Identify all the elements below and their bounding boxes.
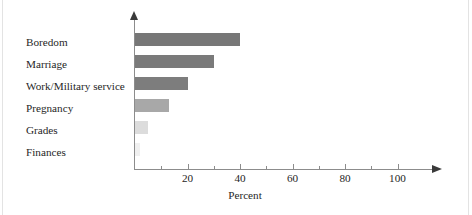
- x-tick-80: [345, 164, 346, 170]
- bar-marriage: [135, 55, 214, 68]
- x-tick-label-60: 60: [273, 172, 313, 184]
- x-axis-title: Percent: [228, 189, 262, 201]
- bar-work-military: [135, 77, 188, 90]
- x-tick-40: [240, 164, 241, 170]
- plot-area: [135, 13, 445, 173]
- page-edge-right: [468, 0, 469, 215]
- x-tick-90: [371, 166, 372, 170]
- x-tick-20: [188, 164, 189, 170]
- y-axis-arrow-icon: [130, 11, 138, 20]
- bar-chart-figure: Boredom Marriage Work/Military service P…: [0, 0, 472, 215]
- category-label-finances: Finances: [0, 146, 124, 159]
- x-tick-label-40: 40: [220, 172, 260, 184]
- category-label-pregnancy: Pregnancy: [0, 102, 124, 115]
- x-tick-50: [266, 166, 267, 170]
- bar-grades: [135, 121, 148, 134]
- x-tick-label-100: 100: [378, 172, 418, 184]
- category-axis-labels: Boredom Marriage Work/Military service P…: [0, 30, 128, 162]
- x-axis-title-wrap: Percent: [0, 189, 472, 201]
- category-label-marriage: Marriage: [0, 58, 124, 71]
- x-axis-arrow-icon: [432, 165, 442, 173]
- bar-finances: [135, 143, 140, 156]
- bar-pregnancy: [135, 99, 169, 112]
- x-axis-line: [134, 169, 436, 170]
- category-label-work-military: Work/Military service: [0, 80, 124, 93]
- x-tick-label-80: 80: [325, 172, 365, 184]
- x-tick-30: [214, 166, 215, 170]
- category-label-boredom: Boredom: [0, 36, 124, 49]
- y-axis-line: [134, 18, 135, 170]
- bar-boredom: [135, 33, 240, 46]
- x-tick-100: [398, 164, 399, 170]
- x-tick-label-20: 20: [168, 172, 208, 184]
- x-tick-10: [161, 166, 162, 170]
- x-tick-60: [293, 164, 294, 170]
- category-label-grades: Grades: [0, 124, 124, 137]
- x-tick-70: [319, 166, 320, 170]
